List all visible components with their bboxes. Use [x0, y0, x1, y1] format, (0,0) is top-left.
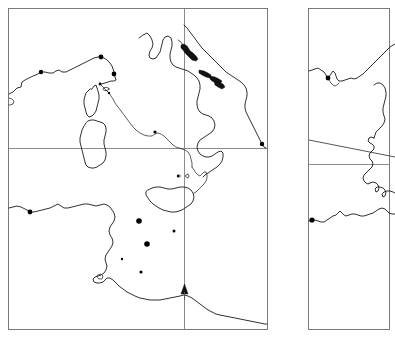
panel-right	[309, 9, 395, 330]
coastline-north-africa-east	[309, 208, 395, 222]
coastline-dalmatia	[184, 25, 266, 148]
islands-dalmatia-group-3	[199, 70, 211, 78]
coastline-greece-central	[363, 137, 374, 184]
islands-dalmatia-group-2	[185, 50, 198, 61]
site-dot	[108, 92, 110, 94]
coastline-west-edge-nub	[9, 98, 14, 105]
coastline-greece-west	[374, 83, 386, 138]
site-dot	[99, 83, 102, 86]
map-figure	[0, 0, 395, 342]
map-canvas	[0, 0, 395, 342]
site-dot	[121, 258, 123, 260]
panel-left-frame	[9, 9, 268, 330]
panel-right-diagonal-line	[309, 140, 395, 157]
site-dot	[173, 230, 176, 233]
site-dot	[28, 210, 33, 215]
site-dot	[39, 70, 43, 74]
panel-right-frame	[309, 9, 390, 330]
site-dot	[136, 218, 142, 224]
islands-dalmatia-group-5	[214, 81, 225, 89]
coastline-italy-adriatic	[139, 33, 223, 177]
coastline-ligurian-tyrrhenian	[100, 84, 192, 167]
coastline-northwest	[9, 57, 116, 94]
site-dot	[112, 72, 117, 77]
coastline-italy-toe	[192, 167, 207, 193]
islets-aeolian	[186, 174, 189, 178]
site-dot	[144, 241, 150, 247]
coastline-balkan-north	[309, 44, 395, 81]
site-dot	[326, 76, 331, 81]
island-corsica	[84, 85, 99, 117]
coastline-peloponnese	[370, 182, 395, 197]
island-sicily	[146, 187, 194, 212]
island-sardinia	[80, 120, 106, 168]
site-dot	[99, 55, 104, 60]
site-dot	[309, 217, 314, 222]
site-dot	[139, 270, 142, 273]
site-dot	[177, 175, 179, 177]
site-dot	[260, 142, 264, 146]
panel-left	[9, 9, 268, 330]
site-dot	[153, 130, 156, 133]
